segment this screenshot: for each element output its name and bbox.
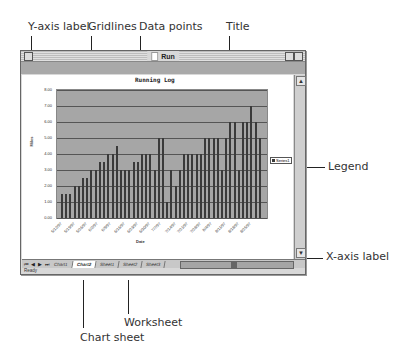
data-bar[interactable]	[259, 138, 261, 218]
x-axis-label[interactable]: Date	[136, 239, 145, 244]
data-bar[interactable]	[234, 122, 236, 218]
data-bar[interactable]	[187, 154, 189, 218]
data-bar[interactable]	[107, 154, 109, 218]
tab-sheet3[interactable]: Sheet3	[142, 261, 166, 268]
data-bar[interactable]	[145, 154, 147, 218]
data-bar[interactable]	[112, 154, 114, 218]
scroll-up-arrow-icon[interactable]: ▲	[296, 76, 306, 86]
x-tick-label: 8/4/97	[201, 221, 212, 232]
y-tick-label: 2.00	[32, 183, 52, 188]
data-bar[interactable]	[95, 170, 97, 218]
x-tick-label: 7/14/97	[164, 221, 177, 234]
callout-line-worksheet	[128, 280, 129, 314]
data-bar[interactable]	[204, 138, 206, 218]
next-sheet-icon[interactable]: ▶	[37, 261, 43, 267]
plot-area[interactable]	[56, 89, 268, 219]
document-icon	[151, 52, 158, 61]
data-bar[interactable]	[213, 138, 215, 218]
excel-window: Run Running Log Miles Date Series1 0.001…	[20, 50, 306, 275]
data-bar[interactable]	[250, 106, 252, 218]
data-bar[interactable]	[124, 170, 126, 218]
tab-chart1[interactable]: Chart1	[49, 261, 73, 268]
data-bar[interactable]	[74, 186, 76, 218]
data-bar[interactable]	[116, 146, 118, 218]
data-bar[interactable]	[149, 154, 151, 218]
data-bar[interactable]	[191, 154, 193, 218]
data-bar[interactable]	[225, 138, 227, 218]
tab-chart2[interactable]: Chart2	[72, 261, 96, 268]
close-box-icon[interactable]	[24, 52, 33, 61]
data-bar[interactable]	[196, 154, 198, 218]
y-tick-label: 6.00	[32, 119, 52, 124]
data-bar[interactable]	[170, 170, 172, 218]
collapse-box-icon[interactable]	[294, 52, 303, 61]
data-bar[interactable]	[242, 122, 244, 218]
data-bar[interactable]	[154, 170, 156, 218]
data-bar[interactable]	[137, 162, 139, 218]
x-tick-label: 7/21/97	[176, 221, 189, 234]
x-tick-label: 7/28/97	[189, 221, 202, 234]
status-bar: Ready	[22, 268, 305, 274]
data-bar[interactable]	[86, 178, 88, 218]
legend[interactable]: Series1	[270, 157, 292, 164]
y-tick-label: 5.00	[32, 135, 52, 140]
data-bar[interactable]	[78, 186, 80, 218]
data-bar[interactable]	[238, 170, 240, 218]
title-wrap: Run	[147, 51, 179, 61]
callout-legend: Legend	[328, 160, 368, 173]
data-bar[interactable]	[175, 186, 177, 218]
zoom-box-icon[interactable]	[285, 52, 294, 61]
data-bar[interactable]	[61, 194, 63, 218]
chart-sheet: Running Log Miles Date Series1 0.001.002…	[22, 75, 293, 259]
data-bar[interactable]	[103, 162, 105, 218]
data-bar[interactable]	[200, 154, 202, 218]
data-bar[interactable]	[99, 162, 101, 218]
x-tick-label: 6/30/97	[138, 221, 151, 234]
tab-sheet1[interactable]: Sheet1	[95, 261, 119, 268]
data-bar[interactable]	[183, 154, 185, 218]
callout-title: Title	[226, 20, 250, 33]
legend-swatch	[272, 159, 275, 162]
data-bar[interactable]	[217, 138, 219, 218]
data-bar[interactable]	[133, 162, 135, 218]
data-bar[interactable]	[246, 122, 248, 218]
data-bar[interactable]	[179, 170, 181, 218]
chart-title[interactable]: Running Log	[135, 76, 175, 83]
title-bar[interactable]: Run	[21, 51, 305, 62]
scroll-down-arrow-icon[interactable]: ▼	[296, 248, 306, 258]
data-bar[interactable]	[162, 138, 164, 218]
tab-sheet2[interactable]: Sheet2	[118, 261, 142, 268]
gridline[interactable]	[57, 106, 267, 107]
y-tick-label: 3.00	[32, 167, 52, 172]
x-tick-label: 6/16/97	[113, 221, 126, 234]
x-tick-label: 6/2/97	[87, 221, 98, 232]
x-tick-label: 5/26/97	[75, 221, 88, 234]
data-bar[interactable]	[128, 170, 130, 218]
callout-y-axis-label: Y-axis label	[28, 20, 90, 33]
data-bar[interactable]	[120, 170, 122, 218]
data-bar[interactable]	[82, 178, 84, 218]
data-bar[interactable]	[69, 194, 71, 218]
data-bar[interactable]	[158, 138, 160, 218]
callout-worksheet: Worksheet	[124, 316, 182, 329]
data-bar[interactable]	[141, 154, 143, 218]
data-bar[interactable]	[229, 122, 231, 218]
gridline[interactable]	[57, 218, 267, 219]
data-bar[interactable]	[166, 202, 168, 218]
data-bar[interactable]	[90, 170, 92, 218]
data-bar[interactable]	[255, 122, 257, 218]
y-tick-label: 4.00	[32, 151, 52, 156]
data-bar[interactable]	[65, 194, 67, 218]
callout-chart-sheet: Chart sheet	[80, 331, 144, 344]
x-tick-label: 6/23/97	[126, 221, 139, 234]
first-sheet-icon[interactable]: ⏮	[23, 261, 29, 267]
prev-sheet-icon[interactable]: ◀	[30, 261, 36, 267]
x-tick-label: 8/18/97	[227, 221, 240, 234]
callout-x-axis-label: X-axis label	[326, 250, 389, 263]
x-tick-label: 7/7/97	[150, 221, 161, 232]
gridline[interactable]	[57, 90, 267, 91]
data-bar[interactable]	[221, 170, 223, 218]
vertical-scrollbar[interactable]: ▲ ▼	[294, 75, 305, 259]
y-tick-label: 8.00	[32, 87, 52, 92]
data-bar[interactable]	[208, 138, 210, 218]
